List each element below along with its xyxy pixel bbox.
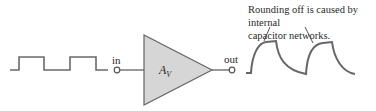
- annotation-line-1: Rounding off is caused by internal: [248, 3, 376, 29]
- annotation-line-2: capacitor networks.: [248, 29, 376, 42]
- output-terminal: [229, 67, 235, 73]
- input-terminal: [114, 67, 120, 73]
- output-rounded-wave: [246, 41, 355, 74]
- input-label: in: [112, 54, 121, 66]
- amplifier-triangle: [144, 35, 212, 105]
- input-square-wave: [10, 57, 108, 70]
- annotation-text: Rounding off is caused by internal capac…: [248, 3, 376, 42]
- output-label: out: [224, 53, 238, 65]
